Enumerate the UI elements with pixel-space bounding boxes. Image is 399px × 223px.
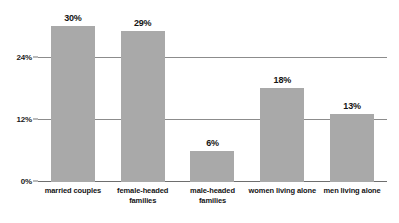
category-label-line: married couples <box>39 186 107 196</box>
category-label-line: men living alone <box>318 186 386 196</box>
bar-slot-male-headed-families: 6% <box>178 10 248 182</box>
bar-group: 30% 29% 6% 18% 13% <box>38 10 387 182</box>
bar-value-label: 6% <box>206 138 219 148</box>
bar-slot-women-living-alone: 18% <box>247 10 317 182</box>
bar-value-label: 29% <box>134 18 151 28</box>
ytick-label-0: 0% <box>21 177 32 186</box>
bar-slot-men-living-alone: 13% <box>317 10 387 182</box>
bar-chart: 24% 12% 0% 30% 29% 6% <box>0 0 399 223</box>
bar-value-label: 13% <box>343 101 360 111</box>
bar-married-couples[interactable]: 30% <box>51 26 95 182</box>
category-label-line: women living alone <box>248 186 316 196</box>
bar-female-headed-families[interactable]: 29% <box>121 31 165 182</box>
ytick-label-12: 12% <box>17 115 32 124</box>
bar-value-label: 18% <box>274 75 291 85</box>
category-label-men-living-alone: men living alone <box>317 186 387 206</box>
bar-slot-female-headed-families: 29% <box>108 10 178 182</box>
category-label-line: families <box>179 196 247 206</box>
bar-slot-married-couples: 30% <box>38 10 108 182</box>
bar-value-label: 30% <box>64 13 81 23</box>
category-label-line: female-headed <box>109 186 177 196</box>
bar-men-living-alone[interactable]: 13% <box>330 114 374 182</box>
category-label-female-headed-families: female-headed families <box>108 186 178 206</box>
ytick-label-24: 24% <box>17 52 32 61</box>
bar-women-living-alone[interactable]: 18% <box>260 88 304 182</box>
category-label-women-living-alone: women living alone <box>247 186 317 206</box>
x-axis-category-labels: married couples female-headed families m… <box>38 186 387 206</box>
plot-area: 24% 12% 0% 30% 29% 6% <box>38 10 387 182</box>
category-label-male-headed-families: male-headed families <box>178 186 248 206</box>
bar-male-headed-families[interactable]: 6% <box>190 151 234 182</box>
category-label-line: male-headed <box>179 186 247 196</box>
category-label-married-couples: married couples <box>38 186 108 206</box>
category-label-line: families <box>109 196 177 206</box>
